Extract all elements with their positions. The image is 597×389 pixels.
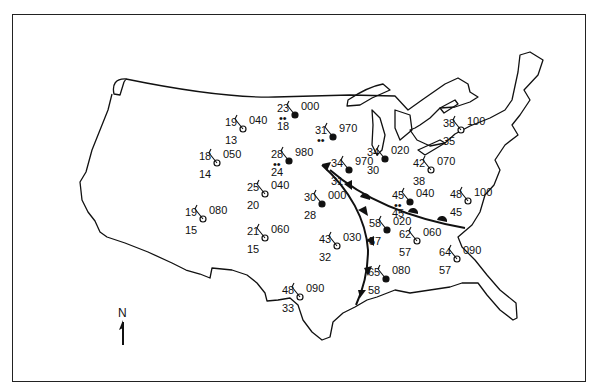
station-temperature: 48	[282, 285, 294, 296]
station-dewpoint: 14	[199, 169, 211, 180]
station-pressure: 090	[306, 283, 324, 294]
station-temperature: 34	[331, 158, 343, 169]
station-pressure: 030	[343, 232, 361, 243]
north-arrow-icon	[119, 320, 123, 345]
north-label: N	[118, 306, 127, 320]
station-temperature: 64	[439, 247, 451, 258]
station-pressure: 040	[249, 115, 267, 126]
station-pressure: 050	[223, 149, 241, 160]
station-pressure: 000	[328, 190, 346, 201]
station-pressure: 080	[209, 205, 227, 216]
station-temperature: 34	[367, 147, 379, 158]
present-weather-icon: ••	[279, 113, 287, 124]
station-dewpoint: 57	[369, 236, 381, 247]
station-temperature: 18	[199, 151, 211, 162]
station-pressure: 040	[271, 180, 289, 191]
station-temperature: 19	[185, 207, 197, 218]
present-weather-icon: ••	[273, 159, 281, 170]
station-dewpoint: 31	[331, 176, 343, 187]
station-pressure: 040	[416, 188, 434, 199]
station-pressure: 070	[437, 156, 455, 167]
station-temperature: 48	[450, 189, 462, 200]
station-dewpoint: 15	[185, 225, 197, 236]
station-dewpoint: 28	[304, 210, 316, 221]
lake-ontario	[440, 100, 458, 113]
station-pressure: 100	[474, 187, 492, 198]
station-temperature: 19	[225, 117, 237, 128]
station-pressure: 060	[271, 224, 289, 235]
station-temperature: 43	[319, 234, 331, 245]
weather-map	[0, 0, 597, 389]
station-temperature: 58	[369, 218, 381, 229]
station-pressure: 000	[301, 101, 319, 112]
station-pressure: 020	[393, 216, 411, 227]
station-temperature: 25	[247, 182, 259, 193]
station-temperature: 21	[247, 226, 259, 237]
station-temperature: 42	[413, 158, 425, 169]
station-pressure: 080	[392, 265, 410, 276]
station-pressure: 980	[295, 147, 313, 158]
station-dewpoint: 38	[413, 176, 425, 187]
present-weather-icon: ••	[394, 200, 402, 211]
station-pressure: 060	[423, 227, 441, 238]
lake-huron	[395, 110, 412, 140]
station-temperature: 62	[399, 229, 411, 240]
station-dewpoint: 57	[399, 247, 411, 258]
station-pressure: 970	[339, 123, 357, 134]
station-dewpoint: 45	[450, 207, 462, 218]
station-pressure: 100	[467, 116, 485, 127]
station-dewpoint: 15	[247, 244, 259, 255]
station-pressure: 090	[463, 245, 481, 256]
station-dewpoint: 58	[368, 285, 380, 296]
station-dewpoint: 30	[367, 165, 379, 176]
station-dewpoint: 35	[443, 136, 455, 147]
station-pressure: 020	[391, 145, 409, 156]
station-temperature: 38	[443, 118, 455, 129]
station-dewpoint: 32	[319, 252, 331, 263]
station-dewpoint: 33	[282, 303, 294, 314]
station-dewpoint: 13	[225, 135, 237, 146]
station-temperature: 30	[304, 192, 316, 203]
present-weather-icon: ••	[317, 135, 325, 146]
station-dewpoint: 57	[439, 265, 451, 276]
station-dewpoint: 20	[247, 200, 259, 211]
station-temperature: 65	[368, 267, 380, 278]
